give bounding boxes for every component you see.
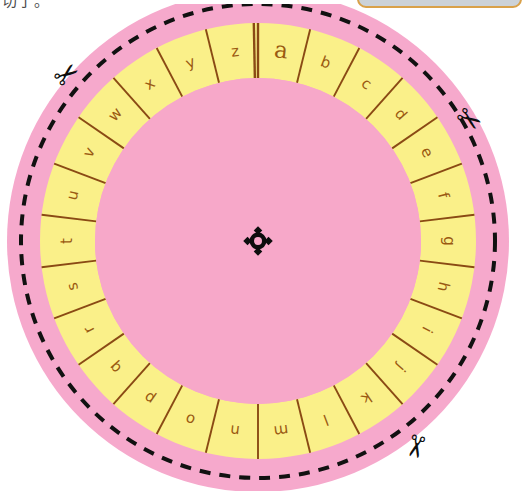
cipher-wheel-stage: abcdefghijklmnopqrstuvwxyz ✂✂✂ bbox=[0, 4, 515, 491]
segment-divider-start-double bbox=[254, 23, 255, 78]
wheel-letter-m: m bbox=[273, 421, 290, 441]
cipher-wheel-graphic: abcdefghijklmnopqrstuvwxyz ✂✂✂ bbox=[0, 4, 515, 491]
scissors-bottom-right-icon: ✂ bbox=[396, 430, 436, 463]
wheel-letter-t: t bbox=[58, 238, 76, 244]
wheel-letter-g: g bbox=[440, 236, 458, 246]
inner-pink-disc bbox=[95, 78, 421, 404]
